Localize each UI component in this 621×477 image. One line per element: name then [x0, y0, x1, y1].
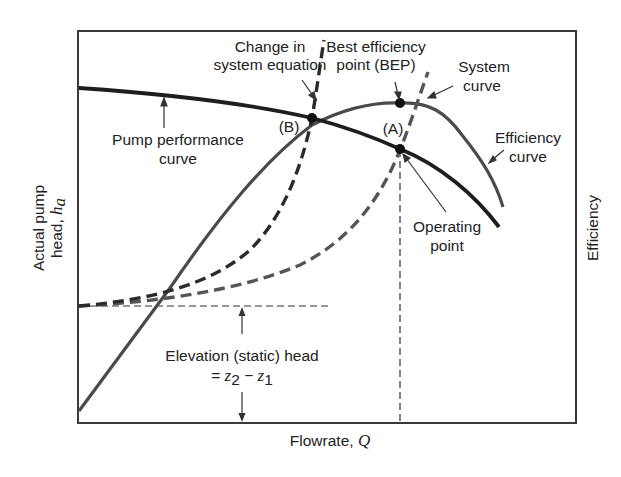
operating-label-1: Operating [413, 218, 481, 235]
point-b-label: (B) [279, 118, 300, 135]
pump-system-diagram: Change in system equation Best efficienc… [0, 0, 621, 477]
y-axis-label-2: head, ha [47, 198, 69, 258]
pump-label-1: Pump performance [112, 131, 244, 148]
point-b-marker [307, 113, 317, 123]
static-head-label: Elevation (static) head [165, 347, 318, 364]
static-head-equation: = z2 − z1 [211, 366, 273, 388]
system-label-2: curve [463, 77, 501, 94]
change-label-1: Change in [235, 38, 306, 55]
efficiency-label-1: Efficiency [495, 129, 561, 146]
efficiency-curve [79, 103, 503, 411]
point-a-label: (A) [383, 120, 404, 137]
right-axis-label: Efficiency [584, 195, 601, 261]
operating-point-marker [395, 144, 405, 154]
svg-text:Efficiency: Efficiency [584, 195, 601, 261]
x-axis-label: Flowrate, Q [290, 431, 370, 450]
bep-marker [395, 98, 405, 108]
operating-label-2: point [430, 237, 464, 254]
system-label-1: System [458, 58, 510, 75]
plot-frame [78, 31, 576, 423]
y-axis-label-1: Actual pump [30, 185, 47, 271]
static-head-arrow [239, 307, 246, 422]
y-axis-label: Actual pump head, ha [30, 185, 69, 271]
pump-label-2: curve [159, 150, 197, 167]
bep-label-1: Best efficiency [326, 38, 426, 55]
changed-system-curve [79, 40, 324, 306]
change-label-2: system equation [214, 56, 327, 73]
efficiency-label-2: curve [509, 148, 547, 165]
bep-label-2: point (BEP) [336, 56, 415, 73]
